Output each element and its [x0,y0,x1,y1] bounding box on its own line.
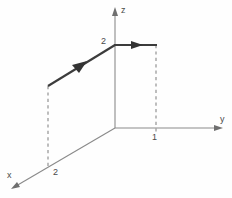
tick-label-group: 2 1 2 [53,36,157,177]
z-axis-arrowhead [112,7,118,16]
z-axis-label: z [121,5,126,15]
guide-lines-group [48,45,156,166]
x-axis-arrowhead [11,182,20,189]
y-axis-arrowhead [214,125,223,131]
y-axis-label: y [220,114,225,124]
z-tick-label-2: 2 [101,36,106,46]
path-horizontal-arrowhead [131,41,143,49]
path-group [48,41,157,86]
axis-group-x: x [7,128,115,189]
axis-group-y: y [115,114,225,131]
x-axis-label: x [7,170,12,180]
path-diagonal-arrowhead [72,61,87,73]
x-tick-label-2: 2 [53,167,58,177]
y-tick-label-1: 1 [152,132,157,142]
axis-group-z: z [112,5,126,128]
coordinate-diagram-figure: z y x 2 1 2 [0,0,232,198]
coordinate-diagram-canvas: z y x 2 1 2 [0,0,232,198]
x-axis-line [16,128,115,186]
